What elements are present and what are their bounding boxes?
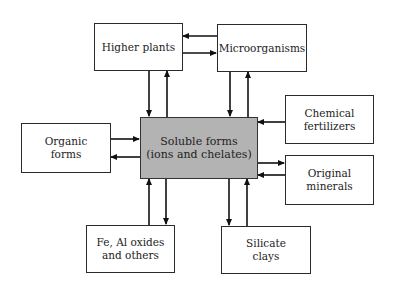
node-label-line2: and others (97, 249, 165, 262)
node-silicate-clays: Silicate clays (221, 226, 311, 274)
node-label-line1: Chemical (304, 107, 356, 120)
node-chemical-fertilizers: Chemical fertilizers (285, 95, 374, 144)
node-label-line1: Original (306, 167, 352, 180)
node-label-line2: clays (246, 250, 286, 263)
node-microorganisms: Microorganisms (217, 24, 307, 72)
node-label-line2: (ions and chelates) (146, 148, 252, 161)
node-label-line2: minerals (306, 180, 352, 193)
node-label-line1: Fe, Al oxides (97, 236, 165, 249)
node-label-line1: Silicate (246, 237, 286, 250)
node-label-line2: forms (45, 148, 88, 161)
node-original-minerals: Original minerals (285, 155, 374, 205)
node-fe-al-oxides: Fe, Al oxides and others (86, 225, 175, 273)
node-organic-forms: Organic forms (21, 123, 111, 173)
node-higher-plants: Higher plants (94, 23, 183, 71)
node-label: Microorganisms (219, 42, 306, 55)
node-label-line1: Organic (45, 135, 88, 148)
node-label: Higher plants (102, 41, 175, 54)
node-label-line2: fertilizers (304, 120, 356, 133)
node-label-line1: Soluble forms (146, 135, 252, 148)
node-soluble-forms: Soluble forms (ions and chelates) (140, 117, 258, 179)
